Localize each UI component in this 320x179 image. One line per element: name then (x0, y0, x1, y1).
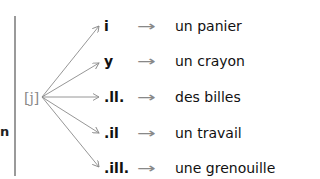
arrow-to-y (42, 63, 99, 97)
arrow-to-il (42, 97, 99, 133)
arrow-icon: → (137, 125, 156, 141)
grapheme-i: i (104, 18, 109, 34)
example-word: des billes (175, 89, 241, 105)
grapheme-il: .il (104, 125, 119, 141)
grapheme-ill: .ill. (104, 160, 129, 176)
arrow-icon: → (137, 18, 156, 34)
arrow-icon: → (137, 160, 156, 176)
example-word: un crayon (175, 53, 245, 69)
arrow-icon: → (137, 53, 156, 69)
arrow-icon: → (137, 89, 156, 105)
grapheme-y: y (104, 53, 113, 69)
grapheme-ll: .ll. (104, 89, 124, 105)
arrow-to-ill (42, 97, 99, 167)
example-word: un travail (175, 125, 242, 141)
arrow-to-i (42, 26, 99, 97)
example-word: une grenouille (175, 160, 275, 176)
example-word: un panier (175, 18, 242, 34)
